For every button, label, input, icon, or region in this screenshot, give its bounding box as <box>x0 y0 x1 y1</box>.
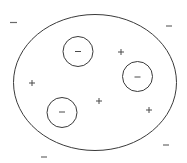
plus-sign-icon <box>29 80 35 86</box>
enclosed-negative-charge <box>47 98 77 128</box>
enclosed-negative-charge <box>63 37 93 67</box>
plus-sign-icon <box>118 49 124 55</box>
plus-sign-icon <box>96 98 102 104</box>
enclosed-negative-charge <box>123 62 153 92</box>
outer-body-ellipse <box>14 15 177 151</box>
charge-diagram <box>0 0 187 163</box>
plus-sign-icon <box>146 107 152 113</box>
positive-charge <box>29 80 35 86</box>
positive-charge <box>96 98 102 104</box>
positive-charge <box>118 49 124 55</box>
positive-charge <box>146 107 152 113</box>
